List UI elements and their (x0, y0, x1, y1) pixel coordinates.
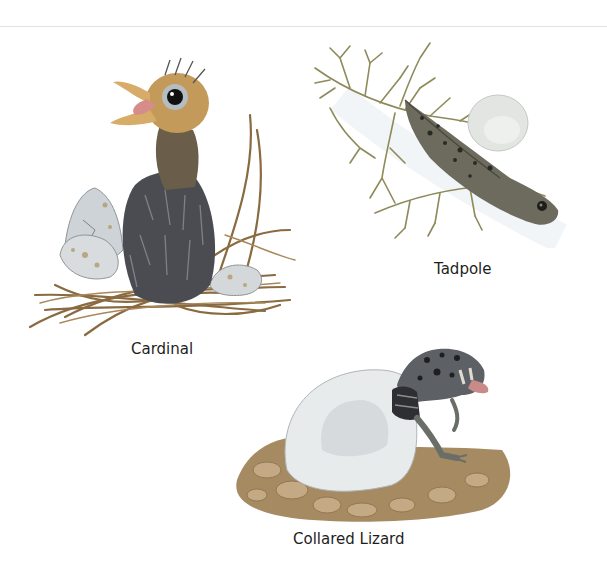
top-divider (0, 26, 607, 27)
cardinal-caption: Cardinal (131, 340, 193, 358)
tadpole-illustration (310, 38, 570, 248)
cardinal-illustration (25, 55, 305, 340)
collared-lizard-illustration (232, 340, 522, 525)
collared-lizard-caption: Collared Lizard (293, 530, 405, 548)
tadpole-caption: Tadpole (434, 260, 492, 278)
